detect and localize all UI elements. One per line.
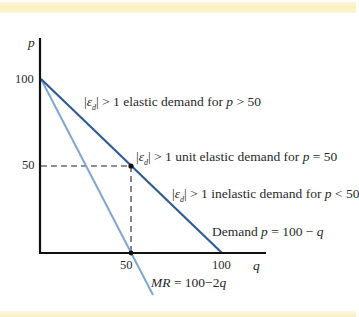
demand-equation-label: Demand p = 100 − q [212, 225, 324, 239]
y-tick-50: 50 [22, 159, 35, 172]
x-axis-label: q [253, 259, 260, 273]
x-tick-50: 50 [120, 259, 133, 272]
inelastic-demand-label: |εd| > 1 inelastic demand for p < 50 [172, 187, 359, 204]
mr-equation-label: MR = 100−2q [151, 276, 226, 290]
x-tick-100: 100 [212, 259, 231, 272]
unit-elastic-point [128, 163, 133, 168]
y-tick-100: 100 [15, 73, 34, 86]
y-axis-label: p [28, 36, 35, 50]
elastic-demand-label: |εd| > 1 elastic demand for p > 50 [84, 95, 261, 112]
unit-elastic-demand-label: |εd| > 1 unit elastic demand for p = 50 [136, 150, 337, 167]
mr-zero-point [129, 251, 134, 256]
